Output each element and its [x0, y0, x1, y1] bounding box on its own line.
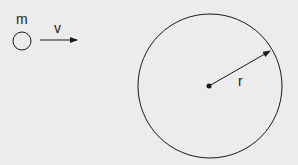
radius-label: r: [238, 73, 243, 89]
diagram-canvas: m v r: [0, 0, 298, 165]
mass-label: m: [16, 11, 28, 27]
particle-circle: [13, 32, 31, 50]
velocity-label: v: [54, 20, 61, 36]
